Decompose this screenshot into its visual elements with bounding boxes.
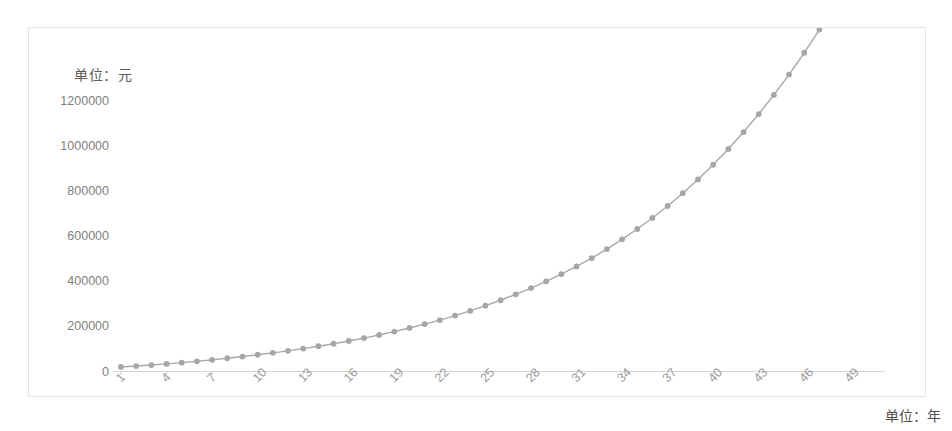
data-point-marker [133,363,139,369]
data-point-marker [680,190,686,196]
x-axis-tick-label: 43 [751,365,771,385]
data-point-marker [285,348,291,354]
x-axis-tick-labels: 1471013161922252831343740434649 [113,365,862,385]
x-axis-tick-label: 34 [614,365,634,385]
data-point-marker [589,255,595,261]
data-point-marker [574,264,580,270]
data-point-marker [148,362,154,368]
x-axis-tick-label: 19 [387,365,407,385]
data-point-marker [756,111,762,117]
x-axis-tick-label: 16 [341,365,361,385]
data-point-marker [543,278,549,284]
data-point-marker [361,335,367,341]
x-axis-tick-label: 25 [478,365,498,385]
y-axis-tick-label: 1000000 [60,139,109,153]
data-point-marker [300,346,306,352]
x-axis-tick-label: 31 [569,365,589,385]
data-point-marker [710,162,716,168]
data-point-marker [695,177,701,183]
x-axis-tick-label: 37 [660,365,680,385]
data-point-marker [498,297,504,303]
data-point-marker [741,129,747,135]
data-point-marker [619,236,625,242]
data-point-marker [179,360,185,366]
line-chart-plot: 020000040000060000080000010000001200000 … [29,28,927,398]
x-axis-tick-label: 13 [295,365,315,385]
y-axis-tick-label: 600000 [67,229,109,243]
x-axis-tick-label: 49 [842,365,862,385]
data-point-marker [164,361,170,367]
data-point-marker [801,50,807,56]
data-point-marker [270,350,276,356]
data-point-marker [771,92,777,98]
data-point-marker [452,313,458,319]
data-point-marker [437,317,443,323]
data-point-marker [634,226,640,232]
data-point-marker [665,203,671,209]
x-axis-tick-label: 22 [432,365,452,385]
data-point-marker [528,285,534,291]
y-axis-tick-label: 800000 [67,184,109,198]
data-point-marker [650,215,656,221]
y-axis-tick-label: 0 [102,365,109,379]
chart-frame: 单位：元 02000004000006000008000001000000120… [28,27,926,397]
data-point-marker [194,358,200,364]
data-point-markers [118,28,868,370]
y-axis-tick-label: 1200000 [60,94,109,108]
data-point-marker [255,352,261,358]
data-point-marker [376,332,382,338]
x-axis-unit-label: 单位：年 [885,405,941,425]
x-axis-tick-label: 46 [796,365,816,385]
data-point-marker [725,146,731,152]
data-series-line [121,28,865,367]
x-axis-tick-label: 28 [523,365,543,385]
data-point-marker [786,72,792,78]
data-point-marker [422,321,428,327]
data-point-marker [331,341,337,347]
data-point-marker [224,355,230,361]
data-point-marker [209,357,215,363]
data-point-marker [483,303,489,309]
data-point-marker [315,343,321,349]
y-axis-tick-labels: 020000040000060000080000010000001200000 [60,94,109,378]
data-point-marker [240,354,246,360]
x-axis-tick-label: 40 [705,365,725,385]
x-axis-tick-label: 10 [250,365,270,385]
data-point-marker [391,329,397,335]
y-axis-tick-label: 400000 [67,274,109,288]
data-point-marker [604,246,610,252]
data-point-marker [346,338,352,344]
data-point-marker [558,271,564,277]
data-point-marker [513,291,519,297]
y-axis-tick-label: 200000 [67,319,109,333]
data-point-marker [467,308,473,314]
data-point-marker [407,325,413,331]
data-point-marker [118,364,124,370]
